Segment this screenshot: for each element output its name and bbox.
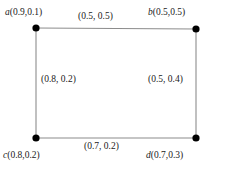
node-d (192, 134, 199, 141)
node-c (32, 134, 39, 141)
vertex-label-b: b(0.5,0.5) (148, 7, 185, 18)
vertex-value-a: (0.9,0.1) (10, 7, 42, 17)
edge-label-b-d: (0.5, 0.4) (148, 74, 183, 85)
vertex-label-a: a(0.9,0.1) (5, 7, 42, 18)
vertex-value-c: (0.8,0.2) (7, 150, 39, 160)
node-b (192, 25, 199, 32)
graph-figure: a(0.9,0.1) b(0.5,0.5) c(0.8,0.2) d(0.7,0… (0, 0, 231, 172)
node-a (32, 24, 39, 31)
vertex-value-d: (0.7,0.3) (151, 150, 183, 160)
vertex-label-c: c(0.8,0.2) (3, 150, 40, 161)
vertex-label-d: d(0.7,0.3) (146, 150, 183, 161)
vertex-value-b: (0.5,0.5) (153, 7, 185, 17)
edge-a-b (36, 28, 196, 29)
edge-label-a-b: (0.5, 0.5) (78, 11, 113, 22)
edge-label-a-c: (0.8, 0.2) (41, 74, 76, 85)
edge-label-c-d: (0.7, 0.2) (84, 141, 119, 152)
